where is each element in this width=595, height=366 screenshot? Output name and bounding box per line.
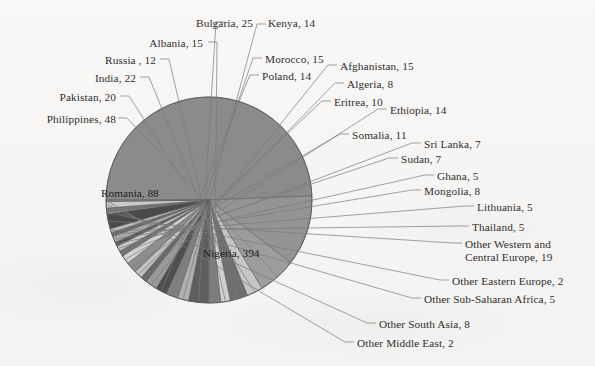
slice-label-albania: Albania, 15 [8, 37, 203, 50]
slice-label-algeria: Algeria, 8 [347, 78, 393, 91]
slice-label-afghanistan: Afghanistan, 15 [340, 60, 414, 73]
slice-label-lithuania: Lithuania, 5 [477, 201, 533, 214]
slice-label-russia: Russia , 12 [8, 54, 156, 67]
slice-label-bulgaria: Bulgaria, 25 [196, 17, 253, 30]
slice-label-ghana: Ghana, 5 [437, 170, 479, 183]
slice-label-thailand: Thailand, 5 [472, 221, 525, 234]
pie-chart-figure: Philippines, 48 Pakistan, 20 India, 22 R… [0, 0, 595, 366]
slice-label-other-western-central-europe-line2: Central Europe, 19 [465, 251, 552, 264]
slice-label-kenya: Kenya, 14 [268, 17, 315, 30]
pie-slice-group [106, 97, 312, 303]
slice-label-sri-lanka: Sri Lanka, 7 [424, 138, 481, 151]
slice-label-india: India, 22 [8, 72, 136, 85]
slice-label-romania: Romania, 88 [101, 187, 159, 199]
slice-label-other-middle-east: Other Middle East, 2 [357, 337, 454, 350]
slice-label-ethiopia: Ethiopia, 14 [390, 104, 446, 117]
slice-label-other-western-central-europe-line1: Other Western and [465, 238, 551, 251]
slice-label-sudan: Sudan, 7 [401, 153, 441, 166]
slice-label-morocco: Morocco, 15 [265, 53, 324, 66]
slice-label-other-eastern-europe: Other Eastern Europe, 2 [452, 275, 563, 288]
slice-label-pakistan: Pakistan, 20 [8, 91, 116, 104]
slice-label-nigeria: Nigeria, 394 [203, 247, 259, 259]
slice-label-other-sub-saharan-africa: Other Sub-Saharan Africa, 5 [424, 293, 555, 306]
slice-label-eritrea: Eritrea, 10 [334, 96, 383, 109]
slice-label-mongolia: Mongolia, 8 [424, 185, 480, 198]
slice-label-other-south-asia: Other South Asia, 8 [379, 318, 470, 331]
slice-label-somalia: Somalia, 11 [352, 129, 407, 142]
pie-slice [106, 97, 312, 200]
slice-label-philippines: Philippines, 48 [8, 113, 116, 126]
slice-label-poland: Poland, 14 [262, 70, 311, 83]
